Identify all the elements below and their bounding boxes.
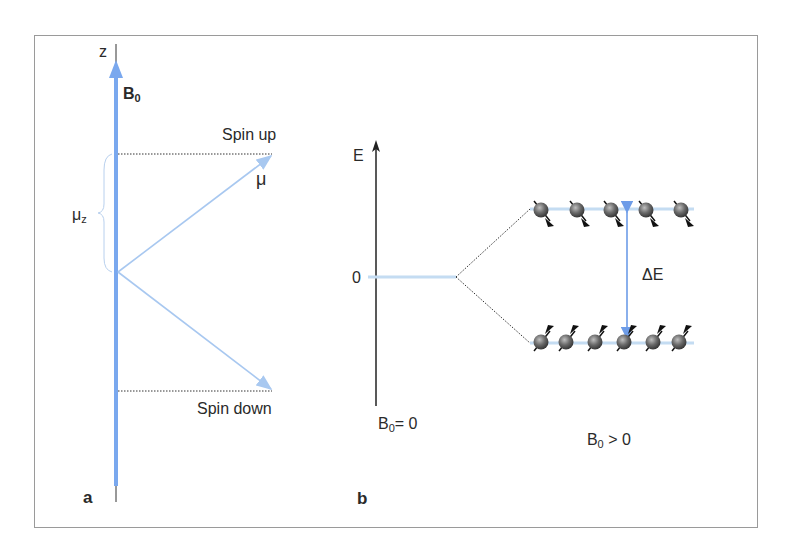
- spin-down-label: Spin down: [197, 401, 272, 417]
- b0-subscript: 0: [135, 92, 141, 104]
- lower-spin-group: [534, 325, 693, 351]
- b0-arrowhead-icon: [109, 60, 123, 78]
- spin-up-label: Spin up: [222, 127, 276, 143]
- spin-down-vector: [118, 272, 271, 389]
- spin-up-particle-icon: [672, 325, 693, 351]
- spin-down-particle-icon: [604, 201, 625, 227]
- condition-relation: = 0: [395, 415, 418, 432]
- split-line-lower: [456, 277, 530, 343]
- spin-up-particle-icon: [588, 325, 609, 351]
- condition-relation: > 0: [604, 431, 631, 448]
- spin-down-particle-icon: [639, 201, 660, 227]
- spin-up-vector: [118, 156, 271, 272]
- delta-e-label: ΔE: [642, 267, 663, 283]
- panel-a-label: a: [83, 489, 92, 506]
- mu-z-label: μz: [72, 207, 87, 225]
- mu-label: μ: [256, 170, 266, 188]
- spin-down-particle-icon: [534, 201, 555, 227]
- mu-z-brace: [98, 154, 112, 272]
- panel-b-label: b: [357, 490, 367, 507]
- b0-symbol: B: [378, 415, 389, 432]
- diagram-canvas: [0, 0, 790, 558]
- energy-axis-label: E: [353, 148, 364, 164]
- mu-z-subscript: z: [81, 213, 87, 225]
- b0-symbol: B: [587, 431, 598, 448]
- z-axis-label: z: [99, 44, 107, 60]
- panel-a: [98, 44, 272, 502]
- spin-up-particle-icon: [559, 325, 580, 351]
- mu-z-symbol: μ: [72, 206, 81, 223]
- zero-field-condition-label: B0= 0: [378, 416, 417, 434]
- spin-down-particle-icon: [674, 201, 695, 227]
- b0-symbol: B: [123, 85, 135, 102]
- split-line-upper: [456, 209, 530, 277]
- upper-spin-group: [534, 201, 695, 227]
- spin-up-particle-icon: [534, 325, 555, 351]
- spin-down-particle-icon: [570, 201, 591, 227]
- zero-energy-label: 0: [352, 270, 361, 286]
- applied-field-condition-label: B0 > 0: [578, 416, 631, 450]
- spin-up-particle-icon: [646, 325, 667, 351]
- b0-field-label: B0: [123, 86, 141, 104]
